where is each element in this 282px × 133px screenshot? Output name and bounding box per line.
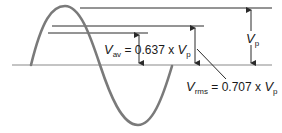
sine-wave-diagram [0,0,282,133]
vav-label: Vav = 0.637 x Vp [104,43,191,59]
vrms-equation: = 0.707 x [211,80,261,94]
vrms-ref-symbol: V [264,79,273,94]
vav-subscript: av [113,50,121,59]
vrms-leader-line [197,49,226,79]
vrms-label: Vrms = 0.707 x Vp [186,80,278,96]
vav-ref-symbol: V [178,42,187,57]
vrms-symbol: V [186,79,195,94]
vav-equation: = 0.637 x [124,43,174,57]
vrms-ref-subscript: p [273,87,277,96]
vav-symbol: V [104,42,113,57]
vp-label: Vp [246,32,259,48]
vav-ref-subscript: p [186,50,190,59]
vp-subscript: p [255,39,259,48]
vp-symbol: V [246,31,255,46]
vrms-subscript: rms [195,87,208,96]
